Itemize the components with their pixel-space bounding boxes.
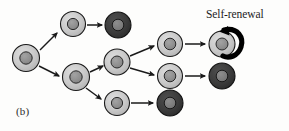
cell-progenitor-mid2 [104, 49, 130, 75]
arrow-root-to-upper [40, 33, 57, 50]
cell-branch-upper [158, 32, 183, 57]
cell-stem-root [13, 45, 40, 72]
cell-progenitor-mid [63, 64, 90, 91]
cell-branch-lower [158, 64, 183, 89]
cell-differentiated-2 [157, 90, 183, 116]
cell-differentiated-3 [209, 63, 235, 89]
panel-label: (b) [16, 105, 29, 117]
cell-lineage-figure: Self-renewal (b) [0, 0, 289, 131]
arrow-root-to-mid [39, 66, 59, 76]
cell-progenitor-low [105, 91, 130, 116]
cell-differentiated-1 [105, 12, 131, 38]
arrow-mid2-to-branch-upper [130, 46, 154, 56]
cell-layer [13, 12, 236, 117]
arrow-mid-to-mid2 [90, 66, 103, 72]
cell-progenitor-upper [61, 12, 86, 37]
arrow-mid2-to-branch-lower [130, 68, 154, 75]
cell-terminal-stem [209, 31, 235, 57]
self-renewal-label: Self-renewal [206, 8, 264, 20]
arrow-mid-to-low [86, 88, 101, 99]
